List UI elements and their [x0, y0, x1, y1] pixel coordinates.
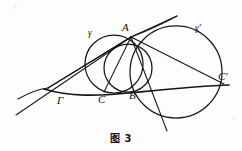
curve-capital-gamma-label: Γ — [57, 95, 63, 106]
point-a-label: A — [122, 22, 129, 33]
circle-gamma-label: γ — [88, 29, 92, 39]
point-b-label: B — [129, 90, 136, 101]
scan-speck — [232, 118, 234, 120]
circle-gamma-prime — [130, 26, 222, 118]
line-a-through-b — [131, 37, 167, 131]
point-c-prime-label: C' — [218, 71, 228, 82]
line-a-to-c-prime — [131, 37, 224, 84]
point-c-label: C — [98, 94, 105, 105]
geometry-canvas — [0, 0, 242, 151]
geometry-figure: γ γ' A B C C' Γ 图 3 — [0, 0, 242, 151]
figure-caption: 图 3 — [0, 130, 242, 145]
circle-inner-through-a-b — [104, 44, 152, 92]
circle-gamma-prime-label: γ' — [195, 24, 201, 34]
scan-speck — [14, 6, 17, 9]
circle-gamma — [85, 35, 143, 93]
line-tangent-through-a — [16, 37, 131, 115]
